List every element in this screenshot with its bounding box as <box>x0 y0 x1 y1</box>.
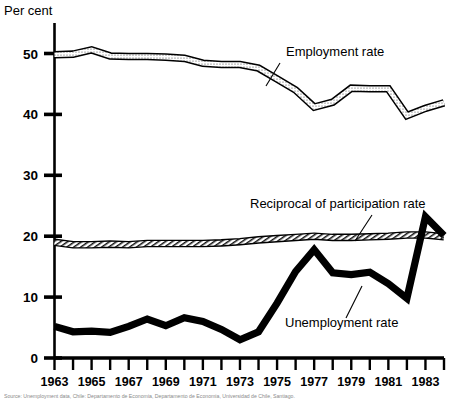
series-employment-rate <box>55 50 445 116</box>
y-tick-label: 10 <box>23 290 38 305</box>
y-tick-label: 20 <box>23 229 38 244</box>
x-axis-tick-labels: 1963196519671969197119731975197719791981… <box>41 375 440 389</box>
y-tick-label: 50 <box>23 47 38 62</box>
x-tick-label: 1965 <box>78 375 106 389</box>
x-axis-ticks <box>55 358 445 370</box>
source-footnote: Source: Unemployment data, Chile: Depart… <box>4 393 464 399</box>
line-chart: 01020304050 1963196519671969197119731975… <box>0 0 465 392</box>
x-tick-label: 1963 <box>41 375 69 389</box>
y-tick-label: 40 <box>23 107 38 122</box>
series-reciprocal-participation-rate <box>55 235 445 245</box>
x-tick-label: 1981 <box>374 375 402 389</box>
y-tick-label: 0 <box>30 351 38 366</box>
y-axis-title: Per cent <box>4 3 53 18</box>
y-axis-ticks <box>44 54 62 359</box>
x-tick-label: 1975 <box>263 375 291 389</box>
series-outline <box>55 50 445 116</box>
annotation-reciprocal-participation-rate: Reciprocal of participation rate <box>250 196 426 211</box>
chart-container: 01020304050 1963196519671969197119731975… <box>0 0 465 407</box>
y-tick-label: 30 <box>23 168 38 183</box>
x-tick-label: 1967 <box>115 375 143 389</box>
x-tick-label: 1983 <box>412 375 440 389</box>
annotation-leader-lines <box>266 63 372 318</box>
y-axis-tick-labels: 01020304050 <box>23 47 38 367</box>
annotation-employment-rate: Employment rate <box>286 44 384 59</box>
x-tick-label: 1979 <box>337 375 365 389</box>
x-tick-label: 1969 <box>152 375 180 389</box>
x-tick-label: 1971 <box>189 375 217 389</box>
annotation-unemployment-rate: Unemployment rate <box>285 315 398 330</box>
leader-line-unemployment <box>346 286 362 318</box>
x-tick-label: 1973 <box>226 375 254 389</box>
x-tick-label: 1977 <box>300 375 328 389</box>
